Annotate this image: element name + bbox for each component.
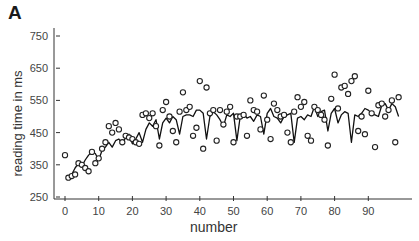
data-point: [110, 130, 115, 135]
data-point: [153, 124, 158, 129]
y-tick-label: 350: [30, 159, 48, 171]
x-tick-label: 30: [160, 205, 172, 217]
data-point: [254, 109, 259, 114]
data-point: [356, 128, 361, 133]
data-point: [214, 138, 219, 143]
data-point: [329, 96, 334, 101]
x-tick-label: 40: [194, 205, 206, 217]
data-point: [116, 127, 121, 132]
data-point: [393, 140, 398, 145]
data-point: [292, 109, 297, 114]
x-tick-label: 60: [261, 205, 273, 217]
data-point: [319, 112, 324, 117]
data-point: [359, 114, 364, 119]
data-point: [170, 128, 175, 133]
data-point: [157, 143, 162, 148]
x-tick-label: 10: [93, 205, 105, 217]
data-point: [268, 136, 273, 141]
data-point: [96, 156, 101, 161]
chart-plot-area: 2503504505506507500102030405060708090: [0, 0, 419, 241]
data-point: [224, 109, 229, 114]
data-point: [231, 140, 236, 145]
data-point: [281, 112, 286, 117]
data-point: [180, 90, 185, 95]
data-point: [248, 98, 253, 103]
data-point: [190, 133, 195, 138]
data-point: [308, 138, 313, 143]
tick-labels: 2503504505506507500102030405060708090: [30, 30, 375, 217]
data-point: [197, 78, 202, 83]
data-point: [147, 116, 152, 121]
data-point: [89, 149, 94, 154]
data-point: [113, 120, 118, 125]
data-point: [271, 101, 276, 106]
data-point: [167, 114, 172, 119]
data-point: [106, 124, 111, 129]
data-point: [120, 140, 125, 145]
data-point: [295, 95, 300, 100]
data-point: [396, 95, 401, 100]
data-point: [258, 127, 263, 132]
data-point: [103, 140, 108, 145]
data-point: [62, 153, 67, 158]
data-point: [389, 98, 394, 103]
data-point: [221, 122, 226, 127]
data-point: [342, 83, 347, 88]
x-tick-label: 50: [227, 205, 239, 217]
y-tick-label: 450: [30, 127, 48, 139]
x-tick-label: 20: [126, 205, 138, 217]
data-point: [325, 143, 330, 148]
data-point: [93, 161, 98, 166]
data-point: [372, 144, 377, 149]
data-point: [150, 111, 155, 116]
data-point: [383, 114, 388, 119]
data-point: [298, 104, 303, 109]
data-point: [332, 72, 337, 77]
data-point: [362, 132, 367, 137]
data-point: [386, 107, 391, 112]
data-point: [275, 107, 280, 112]
data-point: [261, 93, 266, 98]
data-point: [201, 146, 206, 151]
data-point: [174, 140, 179, 145]
x-tick-label: 90: [362, 205, 374, 217]
data-point: [352, 74, 357, 79]
y-tick-label: 550: [30, 94, 48, 106]
data-point: [204, 85, 209, 90]
data-point: [379, 101, 384, 106]
data-point: [211, 107, 216, 112]
data-point: [244, 133, 249, 138]
data-point: [288, 140, 293, 145]
data-point: [228, 104, 233, 109]
data-point: [335, 106, 340, 111]
data-point: [285, 130, 290, 135]
data-point: [349, 78, 354, 83]
data-point: [194, 125, 199, 130]
data-point: [99, 146, 104, 151]
data-point: [164, 99, 169, 104]
x-tick-label: 70: [295, 205, 307, 217]
data-point: [345, 91, 350, 96]
data-point: [143, 111, 148, 116]
data-point: [160, 107, 165, 112]
data-point: [177, 109, 182, 114]
y-tick-label: 250: [30, 191, 48, 203]
y-tick-label: 750: [30, 30, 48, 42]
y-tick-label: 650: [30, 62, 48, 74]
data-point: [187, 104, 192, 109]
x-tick-label: 80: [328, 205, 340, 217]
x-tick-label: 0: [62, 205, 68, 217]
data-point: [366, 88, 371, 93]
data-point: [241, 112, 246, 117]
data-point: [369, 111, 374, 116]
data-point: [73, 172, 78, 177]
data-point: [302, 99, 307, 104]
observed-points: [62, 72, 401, 180]
data-point: [137, 141, 142, 146]
data-point: [265, 117, 270, 122]
data-point: [217, 107, 222, 112]
data-point: [315, 107, 320, 112]
data-point: [322, 117, 327, 122]
data-point: [305, 133, 310, 138]
data-point: [86, 169, 91, 174]
